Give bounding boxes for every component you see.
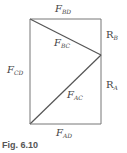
label-f-ad: FAD xyxy=(56,128,72,139)
label-sub: A xyxy=(114,84,118,91)
label-main: F xyxy=(67,89,74,100)
segment-bc xyxy=(30,19,101,55)
label-f-ac: FAC xyxy=(67,90,83,101)
label-main: R xyxy=(106,79,114,90)
label-f-bd: FBD xyxy=(55,4,71,15)
segment-ac xyxy=(30,55,101,124)
label-f-bc: FBC xyxy=(54,38,70,49)
label-r-b: RB xyxy=(106,30,118,41)
label-r-a: RA xyxy=(106,80,118,91)
label-main: F xyxy=(55,3,62,14)
label-sub: B xyxy=(114,34,118,41)
label-sub: CD xyxy=(14,69,23,76)
label-sub: BD xyxy=(62,8,71,15)
label-main: F xyxy=(56,127,63,138)
label-main: R xyxy=(106,29,114,40)
label-f-cd: FCD xyxy=(7,65,23,76)
label-main: F xyxy=(54,37,61,48)
label-sub: AC xyxy=(74,94,83,101)
label-main: F xyxy=(7,64,14,75)
label-sub: BC xyxy=(61,42,70,49)
label-sub: AD xyxy=(63,132,72,139)
figure-caption: Fig. 6.10 xyxy=(2,140,38,150)
